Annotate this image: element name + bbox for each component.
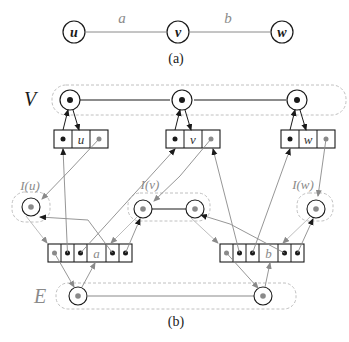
- edge-a-label: a: [118, 10, 126, 26]
- v-record-links: [63, 110, 306, 130]
- vertex-w-label: w: [277, 25, 287, 40]
- incidence-w-label: I(w): [291, 177, 314, 192]
- diagram-canvas: a b u v w (a) V u v w: [0, 0, 349, 342]
- incidence-v: I(v): [128, 177, 210, 221]
- incidence-to-edge-links: [26, 216, 310, 243]
- v-node-v: [172, 90, 192, 110]
- caption-b: (b): [168, 314, 185, 330]
- incidence-u-label: I(u): [19, 178, 40, 193]
- edge-record-a-label: a: [93, 246, 100, 261]
- incidence-u: I(u): [12, 178, 50, 222]
- edge-record-a: a: [48, 244, 132, 262]
- layer-e-label: E: [33, 285, 46, 307]
- vertex-record-u: u: [54, 130, 108, 148]
- layer-v-label: V: [24, 88, 39, 110]
- v-node-w: [287, 90, 307, 110]
- vertex-u-label: u: [70, 25, 78, 40]
- incidence-w: I(w): [291, 177, 333, 221]
- edge-record-b-label: b: [265, 246, 272, 261]
- vertex-v-label: v: [175, 25, 182, 40]
- v-node-u: [60, 90, 80, 110]
- vertex-record-u-label: u: [78, 132, 85, 147]
- vertex-record-v: v: [166, 130, 220, 148]
- graph-a: a b u v w (a): [63, 10, 293, 67]
- caption-a: (a): [168, 51, 184, 67]
- vertex-record-v-label: v: [190, 132, 196, 147]
- vertex-record-w: w: [281, 130, 335, 148]
- vertex-record-w-label: w: [304, 132, 313, 147]
- edge-b-label: b: [224, 10, 232, 26]
